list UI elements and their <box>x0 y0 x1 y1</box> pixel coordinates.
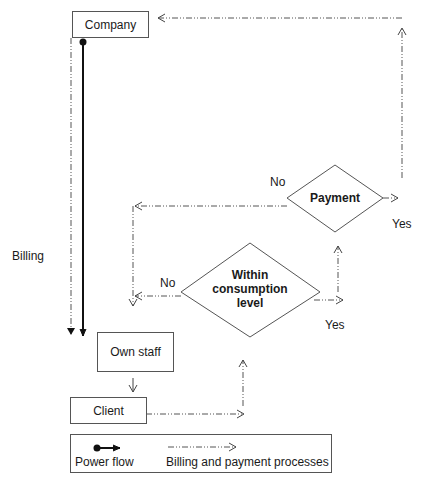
legend-billing-payment-label: Billing and payment processes <box>166 455 329 469</box>
consumption-decision-label: Within consumption level <box>200 268 300 310</box>
client-label: Client <box>93 404 124 418</box>
own-staff-label: Own staff <box>110 345 160 359</box>
company-node: Company <box>72 11 149 38</box>
company-label: Company <box>85 18 136 32</box>
payment-yes-label: Yes <box>392 217 412 231</box>
own-staff-node: Own staff <box>97 332 174 372</box>
consumption-yes-label: Yes <box>325 318 345 332</box>
payment-decision-label: Payment <box>295 191 375 205</box>
client-node: Client <box>70 397 147 424</box>
legend-box: Power flow Billing and payment processes <box>70 434 332 473</box>
billing-label: Billing <box>12 249 44 263</box>
consumption-no-label: No <box>160 276 175 290</box>
legend-power-flow-label: Power flow <box>75 455 134 469</box>
flow-connectors <box>0 0 422 487</box>
payment-no-label: No <box>270 175 285 189</box>
